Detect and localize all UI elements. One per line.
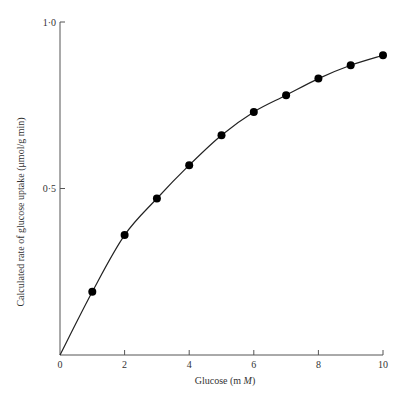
data-point — [347, 61, 355, 69]
fit-curve — [60, 55, 383, 355]
y-axis-label: Calculated rate of glucose uptake (μmol/… — [15, 117, 27, 306]
data-point — [250, 108, 258, 116]
data-point — [379, 51, 387, 59]
y-tick-label: 0·5 — [43, 183, 56, 194]
x-tick-label: 10 — [378, 359, 388, 370]
data-points — [88, 51, 387, 295]
data-point — [88, 288, 96, 296]
data-point — [314, 75, 322, 83]
glucose-uptake-chart: 0·51·0 0246810 Calculated rate of glucos… — [0, 0, 410, 407]
data-point — [185, 161, 193, 169]
data-point — [282, 91, 290, 99]
x-axis-label: Glucose (m M) — [195, 375, 256, 387]
y-tick-label: 1·0 — [43, 17, 56, 28]
x-tick-label: 6 — [251, 359, 256, 370]
x-tick-label: 0 — [58, 359, 63, 370]
x-tick-label: 4 — [187, 359, 192, 370]
x-tick-label: 2 — [122, 359, 127, 370]
data-point — [121, 231, 129, 239]
x-tick-label: 8 — [316, 359, 321, 370]
data-point — [218, 131, 226, 139]
x-axis: 0246810 — [58, 350, 389, 370]
y-axis: 0·51·0 — [43, 17, 65, 356]
data-point — [153, 194, 161, 202]
